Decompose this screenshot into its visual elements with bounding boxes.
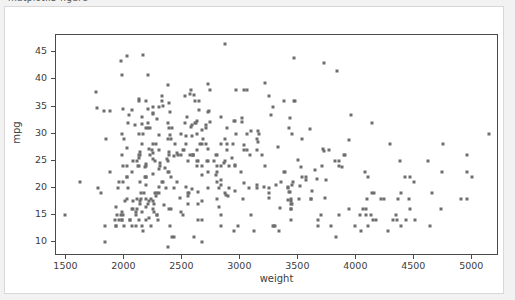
scatter-point [155, 213, 158, 216]
scatter-point [151, 143, 154, 146]
scatter-point [364, 170, 367, 173]
scatter-point [371, 121, 374, 124]
scatter-point [296, 159, 299, 162]
scatter-point [167, 83, 170, 86]
scatter-point [149, 224, 152, 227]
scatter-point [223, 159, 226, 162]
x-tick-mark [297, 255, 298, 259]
scatter-point [279, 207, 282, 210]
scatter-point [184, 185, 187, 188]
scatter-point [289, 203, 292, 206]
y-tick-mark [51, 51, 55, 52]
cut-off-caption: matplotlib figure [8, 0, 88, 3]
scatter-point [125, 165, 128, 168]
scatter-point [137, 156, 140, 159]
scatter-point [151, 112, 154, 115]
scatter-point [164, 166, 167, 169]
scatter-point [121, 165, 124, 168]
scatter-point [426, 159, 429, 162]
scatter-point [191, 135, 194, 138]
scatter-point [120, 133, 123, 136]
scatter-point [145, 100, 148, 103]
scatter-point [104, 224, 107, 227]
scatter-point [136, 159, 139, 162]
scatter-point [166, 121, 169, 124]
scatter-point [353, 224, 356, 227]
scatter-point [120, 219, 123, 222]
scatter-point [151, 151, 154, 154]
scatter-point [123, 200, 126, 203]
scatter-point [364, 208, 367, 211]
scatter-point [220, 165, 223, 168]
scatter-point [220, 178, 223, 181]
scatter-point [127, 186, 130, 189]
scatter-point [317, 224, 320, 227]
scatter-point [168, 170, 171, 173]
scatter-point [290, 208, 293, 211]
scatter-point [216, 181, 219, 184]
scatter-point [168, 208, 171, 211]
scatter-point [185, 135, 188, 138]
scatter-points-layer [56, 35, 497, 254]
scatter-point [217, 186, 220, 189]
scatter-point [366, 175, 369, 178]
scatter-point [253, 230, 256, 233]
scatter-point [135, 224, 138, 227]
scatter-point [319, 213, 322, 216]
scatter-point [145, 197, 148, 200]
scatter-point [370, 213, 373, 216]
x-tick-mark [355, 255, 356, 259]
scatter-point [324, 197, 327, 200]
scatter-point [236, 224, 239, 227]
scatter-point [158, 162, 161, 165]
scatter-point [157, 148, 160, 151]
figure-card: 1015202530354045 15002000250030003500400… [4, 6, 504, 294]
scatter-point [299, 165, 302, 168]
scatter-point [366, 197, 369, 200]
scatter-point [202, 138, 205, 141]
scatter-point [193, 100, 196, 103]
scatter-point [327, 148, 330, 151]
scatter-point [257, 132, 260, 135]
scatter-point [140, 143, 143, 146]
y-tick-mark [51, 241, 55, 242]
scatter-point [117, 181, 120, 184]
scatter-point [166, 157, 169, 160]
scatter-point [366, 224, 369, 227]
scatter-point [241, 197, 244, 200]
scatter-point [206, 159, 209, 162]
scatter-point [243, 182, 246, 185]
scatter-point [187, 191, 190, 194]
scatter-point [195, 148, 198, 151]
scatter-point [275, 183, 278, 186]
scatter-point [404, 219, 407, 222]
scatter-point [195, 132, 198, 135]
scatter-point [197, 109, 200, 112]
scatter-point [264, 165, 267, 168]
scatter-point [127, 121, 130, 124]
scatter-point [280, 181, 283, 184]
y-tick-mark [51, 214, 55, 215]
scatter-point [290, 219, 293, 222]
scatter-point [220, 183, 223, 186]
scatter-point [389, 143, 392, 146]
scatter-point [283, 170, 286, 173]
scatter-point [360, 230, 363, 233]
scatter-point [145, 219, 148, 222]
scatter-point [206, 186, 209, 189]
scatter-point [246, 148, 249, 151]
plot-area[interactable] [55, 34, 498, 255]
scatter-point [188, 93, 191, 96]
scatter-point [197, 191, 200, 194]
scatter-point [180, 132, 183, 135]
scatter-point [201, 219, 204, 222]
scatter-point [196, 203, 199, 206]
scatter-point [227, 165, 230, 168]
scatter-point [277, 146, 280, 149]
scatter-point [130, 224, 133, 227]
scatter-point [152, 203, 155, 206]
scatter-point [337, 159, 340, 162]
scatter-point [277, 230, 280, 233]
scatter-point [305, 178, 308, 181]
scatter-point [314, 169, 317, 172]
